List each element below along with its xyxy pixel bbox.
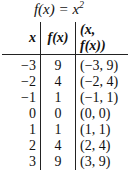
cell-fx: 4 [41,138,76,154]
cell-pair: (0, 0) [76,106,119,122]
function-table: x f(x) (x, f(x)) −39(−3, 9) −24(−2, 4) −… [2,22,118,157]
cell-pair: (3, 9) [76,154,119,157]
table-row: −11(−1, 1) [2,90,118,106]
cell-pair: (2, 4) [76,138,119,154]
cell-fx: 0 [41,106,76,122]
cell-x: 1 [2,122,41,138]
cell-x: −1 [2,90,41,106]
cell-pair: (−2, 4) [76,74,119,90]
cell-fx: 1 [41,122,76,138]
exponent: 2 [79,0,84,10]
header-pair: (x, f(x)) [76,22,119,55]
cell-x: 3 [2,154,41,157]
table-row: −24(−2, 4) [2,74,118,90]
table-row: 24(2, 4) [2,138,118,154]
function-label: f(x) = x [34,1,79,17]
cell-fx: 1 [41,90,76,106]
header-fx: f(x) [41,22,76,55]
table-title: f(x) = x2 [0,1,118,18]
cell-fx: 9 [41,55,76,75]
cell-fx: 9 [41,154,76,157]
table-row: 11(1, 1) [2,122,118,138]
table-row: 00(0, 0) [2,106,118,122]
cell-pair: (1, 1) [76,122,119,138]
cell-x: −3 [2,55,41,75]
header-row: x f(x) (x, f(x)) [2,22,118,55]
header-x: x [2,22,41,55]
cell-x: 2 [2,138,41,154]
cell-pair: (−1, 1) [76,90,119,106]
cell-pair: (−3, 9) [76,55,119,75]
table-row: −39(−3, 9) [2,55,118,75]
cell-x: 0 [2,106,41,122]
cell-fx: 4 [41,74,76,90]
cell-x: −2 [2,74,41,90]
table-row: 39(3, 9) [2,154,118,157]
